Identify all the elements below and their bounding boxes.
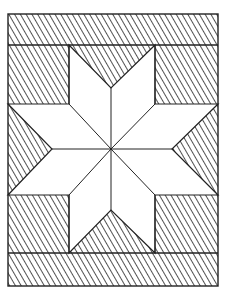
quilt-star-diagram: [0, 0, 227, 296]
